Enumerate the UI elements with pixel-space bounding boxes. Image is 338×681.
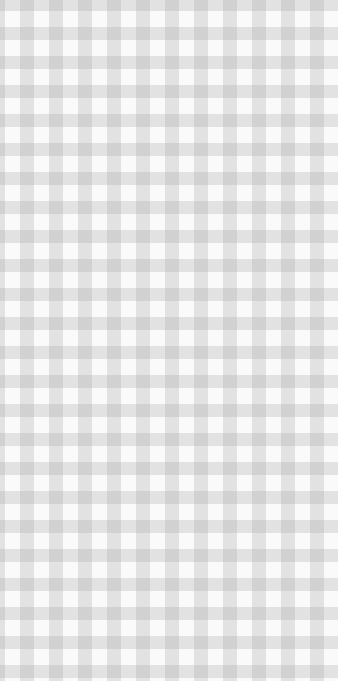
gingham-background xyxy=(0,0,338,681)
